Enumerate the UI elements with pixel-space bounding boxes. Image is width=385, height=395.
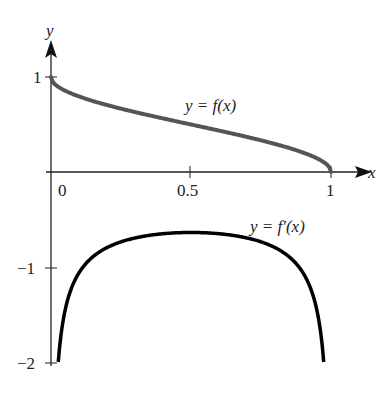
y-axis-label: y	[44, 21, 54, 40]
tick-label-x05: 0.5	[177, 181, 198, 200]
f-curve	[51, 77, 331, 172]
tick-label-ym2: −2	[17, 354, 35, 373]
f-curve-label: y = f(x)	[183, 96, 236, 115]
f-prime-curve	[58, 232, 323, 362]
tick-label-ym1: −1	[17, 259, 35, 278]
chart: 0 0.5 1 1 −1 −2 x y y = f(x) y = f′(x)	[0, 0, 385, 395]
tick-label-y1: 1	[33, 68, 42, 87]
x-axis-label: x	[367, 163, 376, 182]
f-prime-curve-label: y = f′(x)	[248, 217, 305, 236]
tick-label-x1: 1	[326, 181, 335, 200]
tick-label-x0: 0	[58, 181, 67, 200]
